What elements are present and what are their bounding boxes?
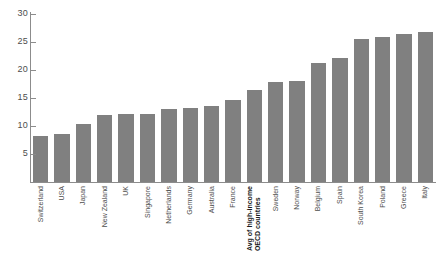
chart-title-cropped	[0, 0, 438, 3]
bar-slot	[286, 14, 307, 182]
x-axis-line	[30, 182, 436, 183]
bar-slot	[180, 14, 201, 182]
y-axis-tick-label: 15	[2, 93, 28, 102]
x-axis-label: Switzerland	[37, 186, 45, 222]
x-axis-label-slot: Japan	[73, 184, 94, 260]
bar-slot	[51, 14, 72, 182]
x-axis-label-slot: France	[222, 184, 243, 260]
bar-slot	[94, 14, 115, 182]
bar[interactable]	[161, 109, 176, 182]
x-axis-label-slot: Italy	[415, 184, 436, 260]
plot-area	[30, 14, 436, 182]
y-axis-tick-label: 20	[2, 65, 28, 74]
x-axis-label: Italy	[422, 186, 430, 199]
x-axis-label-slot: Australia	[201, 184, 222, 260]
x-axis-label: Belgium	[315, 186, 323, 211]
bar[interactable]	[76, 124, 91, 182]
x-axis-label: France	[229, 186, 237, 208]
bar-chart: 51015202530 SwitzerlandUSAJapanNew Zeala…	[0, 0, 438, 260]
bar[interactable]	[140, 114, 155, 182]
y-axis-tick-label: 10	[2, 121, 28, 130]
x-axis-label: Spain	[336, 186, 344, 204]
y-axis-labels: 51015202530	[0, 0, 28, 200]
x-axis-label-slot: Switzerland	[30, 184, 51, 260]
bar[interactable]	[311, 63, 326, 182]
x-axis-label-slot: Greece	[393, 184, 414, 260]
x-axis-label: Netherlands	[165, 186, 173, 224]
x-axis-label-slot: Poland	[372, 184, 393, 260]
y-axis-tick-label: 5	[2, 149, 28, 158]
x-axis-label: Poland	[379, 186, 387, 208]
bar-slot	[372, 14, 393, 182]
bar[interactable]	[204, 106, 219, 182]
bar[interactable]	[268, 82, 283, 182]
y-axis-tick	[30, 70, 36, 71]
bar[interactable]	[396, 34, 411, 182]
y-axis-tick-label: 25	[2, 37, 28, 46]
bar-slot	[351, 14, 372, 182]
bar[interactable]	[418, 32, 433, 182]
x-axis-label-slot: Sweden	[265, 184, 286, 260]
bar-slot	[73, 14, 94, 182]
bar[interactable]	[97, 115, 112, 182]
x-axis-label-slot: Germany	[180, 184, 201, 260]
y-axis-tick	[30, 98, 36, 99]
x-axis-label: Germany	[187, 186, 195, 215]
x-axis-label: Norway	[293, 186, 301, 210]
bar[interactable]	[289, 81, 304, 182]
bar[interactable]	[332, 58, 347, 182]
bar-slot	[393, 14, 414, 182]
x-axis-label-line: Avg of high-income	[246, 186, 253, 251]
bar-slot	[329, 14, 350, 182]
bar-slot	[222, 14, 243, 182]
x-axis-label-slot: Spain	[329, 184, 350, 260]
bar[interactable]	[375, 37, 390, 182]
bar[interactable]	[354, 39, 369, 182]
x-axis-label-slot: South Korea	[351, 184, 372, 260]
x-axis-label: USA	[58, 186, 66, 200]
x-axis-label: Japan	[80, 186, 88, 205]
bar[interactable]	[183, 108, 198, 182]
y-axis-tick	[30, 14, 36, 15]
x-axis-label: Sweden	[272, 186, 280, 211]
x-axis-label-slot: Netherlands	[158, 184, 179, 260]
x-axis-label-slot: New Zealand	[94, 184, 115, 260]
x-axis-label-slot: Avg of high-incomeOECD countries	[244, 184, 265, 260]
y-axis-tick	[30, 42, 36, 43]
bar-slot	[201, 14, 222, 182]
x-axis-label-slot: USA	[51, 184, 72, 260]
x-axis-label: New Zealand	[101, 186, 109, 227]
bar[interactable]	[118, 114, 133, 182]
x-axis-label: Greece	[400, 186, 408, 209]
y-axis-tick	[30, 126, 36, 127]
bar-slot	[115, 14, 136, 182]
x-axis-label: Australia	[208, 186, 216, 213]
bar[interactable]	[225, 100, 240, 182]
bar-slot	[415, 14, 436, 182]
x-axis-label-line: OECD countries	[254, 186, 262, 251]
bar-slot	[244, 14, 265, 182]
x-axis-label-slot: Norway	[286, 184, 307, 260]
bar-slot	[137, 14, 158, 182]
bar[interactable]	[247, 90, 262, 182]
bar[interactable]	[33, 136, 48, 182]
bar[interactable]	[54, 134, 69, 182]
x-axis-label: Singapore	[144, 186, 152, 218]
bar-slot	[308, 14, 329, 182]
x-axis-label-slot: UK	[115, 184, 136, 260]
y-axis-tick-label: 30	[2, 9, 28, 18]
y-axis-tick	[30, 154, 36, 155]
x-axis-labels: SwitzerlandUSAJapanNew ZealandUKSingapor…	[30, 184, 436, 260]
x-axis-label-slot: Belgium	[308, 184, 329, 260]
x-axis-label: UK	[122, 186, 130, 196]
x-axis-label: South Korea	[357, 186, 365, 225]
x-axis-label: Avg of high-incomeOECD countries	[246, 186, 262, 251]
bar-slot	[158, 14, 179, 182]
x-axis-label-slot: Singapore	[137, 184, 158, 260]
bar-slot	[265, 14, 286, 182]
